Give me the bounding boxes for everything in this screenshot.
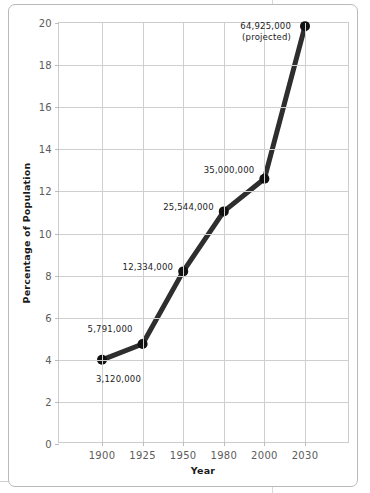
gridline-vertical	[305, 23, 306, 442]
y-axis-tick-mark	[55, 318, 59, 319]
y-axis-tick-mark	[55, 276, 59, 277]
x-axis-tick-label: 2030	[292, 450, 319, 461]
y-axis-title: Percentage of Population	[21, 162, 32, 303]
y-axis-tick-label: 0	[45, 439, 52, 450]
y-axis-tick-mark	[55, 65, 59, 66]
y-axis-tick-label: 6	[45, 312, 52, 323]
y-axis-tick-mark	[55, 360, 59, 361]
x-axis-tick-mark	[183, 442, 184, 446]
y-axis-tick-label: 4	[45, 354, 52, 365]
y-axis-tick-mark	[55, 234, 59, 235]
x-axis-tick-label: 2000	[251, 450, 278, 461]
plot-area: 0246810121416182019001925195019802000203…	[58, 22, 349, 443]
data-point-label: 3,120,000	[96, 374, 141, 385]
y-axis-tick-mark	[55, 191, 59, 192]
data-point-label: 35,000,000	[204, 165, 255, 176]
data-line	[102, 26, 305, 360]
y-axis-tick-label: 12	[39, 186, 52, 197]
x-axis-tick-mark	[305, 442, 306, 446]
y-axis-tick-label: 20	[39, 18, 52, 29]
data-point-label: 64,925,000 (projected)	[240, 21, 291, 43]
y-axis-tick-mark	[55, 402, 59, 403]
x-axis-tick-label: 1980	[210, 450, 237, 461]
x-axis-tick-mark	[224, 442, 225, 446]
x-axis-tick-mark	[143, 442, 144, 446]
line-chart: Percentage of Population Year 0246810121…	[9, 5, 359, 488]
x-axis-tick-mark	[264, 442, 265, 446]
y-axis-tick-mark	[55, 107, 59, 108]
y-axis-tick-label: 18	[39, 60, 52, 71]
gridline-vertical	[224, 23, 225, 442]
y-axis-tick-label: 8	[45, 270, 52, 281]
y-axis-tick-label: 14	[39, 144, 52, 155]
chart-card: Percentage of Population Year 0246810121…	[8, 4, 358, 487]
gridline-vertical	[264, 23, 265, 442]
x-axis-title: Year	[191, 465, 215, 476]
y-axis-tick-mark	[55, 444, 59, 445]
x-axis-tick-label: 1900	[89, 450, 116, 461]
x-axis-tick-label: 1925	[129, 450, 156, 461]
gridline-vertical	[183, 23, 184, 442]
y-axis-tick-mark	[55, 149, 59, 150]
x-axis-tick-label: 1950	[170, 450, 197, 461]
data-point-label: 5,791,000	[88, 324, 133, 335]
data-point-label: 12,334,000	[123, 262, 174, 273]
y-axis-tick-mark	[55, 23, 59, 24]
y-axis-tick-label: 10	[39, 228, 52, 239]
x-axis-tick-mark	[102, 442, 103, 446]
y-axis-tick-label: 16	[39, 102, 52, 113]
data-point-label: 25,544,000	[163, 202, 214, 213]
gridline-vertical	[143, 23, 144, 442]
y-axis-tick-label: 2	[45, 396, 52, 407]
